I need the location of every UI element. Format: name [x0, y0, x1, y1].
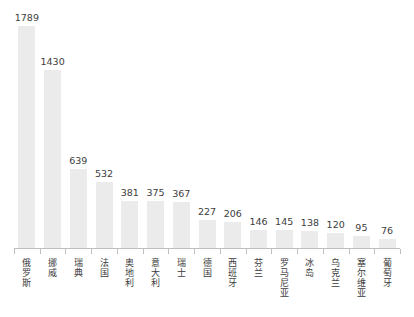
bar-group[interactable]: 206 — [224, 12, 241, 248]
bar-group[interactable]: 367 — [173, 12, 190, 248]
axis-tick — [220, 249, 221, 254]
bar-group[interactable]: 76 — [379, 12, 396, 248]
bar-chart: 1789143063953238137536722720614614513812… — [0, 0, 414, 317]
axis-tick — [374, 249, 375, 254]
bar-group[interactable]: 1430 — [44, 12, 61, 248]
bar[interactable] — [199, 220, 216, 248]
axis-tick — [168, 249, 169, 254]
category-label: 法国 — [99, 258, 110, 278]
bar-group[interactable]: 381 — [121, 12, 138, 248]
bar-group[interactable]: 120 — [327, 12, 344, 248]
bar[interactable] — [301, 231, 318, 248]
axis-tick — [14, 249, 15, 254]
bar[interactable] — [121, 201, 138, 248]
bar-group[interactable]: 227 — [199, 12, 216, 248]
bar-group[interactable]: 146 — [250, 12, 267, 248]
x-axis-line — [14, 248, 400, 249]
bar-group[interactable]: 145 — [276, 12, 293, 248]
bar-value-label: 1789 — [15, 13, 39, 23]
axis-tick — [194, 249, 195, 254]
category-label: 西班牙 — [227, 258, 238, 288]
category-label: 塞尔维亚 — [356, 258, 367, 298]
bar[interactable] — [96, 182, 113, 248]
bar[interactable] — [173, 202, 190, 248]
axis-tick — [349, 249, 350, 254]
bar-value-label: 375 — [146, 188, 164, 198]
category-label: 奥地利 — [124, 258, 135, 288]
bar[interactable] — [70, 169, 87, 248]
bar[interactable] — [18, 26, 35, 248]
axis-tick — [400, 249, 401, 254]
bar-value-label: 206 — [224, 209, 242, 219]
bar-value-label: 227 — [198, 207, 216, 217]
axis-tick — [246, 249, 247, 254]
plot-area: 1789143063953238137536722720614614513812… — [14, 12, 400, 248]
axis-tick — [323, 249, 324, 254]
bar-value-label: 146 — [249, 217, 267, 227]
category-label: 俄罗斯 — [21, 258, 32, 288]
bar[interactable] — [147, 201, 164, 248]
axis-tick — [91, 249, 92, 254]
category-label: 芬兰 — [253, 258, 264, 278]
category-label: 德国 — [202, 258, 213, 278]
axis-tick — [143, 249, 144, 254]
bar-value-label: 145 — [275, 217, 293, 227]
bar[interactable] — [327, 233, 344, 248]
bar-value-label: 138 — [301, 218, 319, 228]
bar-value-label: 76 — [381, 226, 393, 236]
bar-group[interactable]: 95 — [353, 12, 370, 248]
bar[interactable] — [276, 230, 293, 248]
category-label: 挪威 — [47, 258, 58, 278]
bar[interactable] — [379, 239, 396, 248]
category-label: 冰岛 — [304, 258, 315, 278]
axis-tick — [297, 249, 298, 254]
axis-tick — [65, 249, 66, 254]
axis-tick — [40, 249, 41, 254]
bar-value-label: 1430 — [41, 57, 65, 67]
bar-value-label: 381 — [121, 188, 139, 198]
axis-tick — [117, 249, 118, 254]
bar[interactable] — [224, 222, 241, 248]
category-label: 乌克兰 — [330, 258, 341, 288]
category-label: 意大利 — [150, 258, 161, 288]
bar-value-label: 639 — [69, 156, 87, 166]
axis-tick — [271, 249, 272, 254]
bar-group[interactable]: 375 — [147, 12, 164, 248]
category-label: 瑞士 — [176, 258, 187, 278]
bar-group[interactable]: 639 — [70, 12, 87, 248]
category-label: 葡萄牙 — [382, 258, 393, 288]
bar-value-label: 532 — [95, 169, 113, 179]
bar-value-label: 120 — [327, 220, 345, 230]
category-label: 瑞典 — [73, 258, 84, 278]
bar-group[interactable]: 1789 — [18, 12, 35, 248]
category-label: 罗马尼亚 — [279, 258, 290, 298]
bar-value-label: 95 — [355, 223, 367, 233]
bar[interactable] — [44, 70, 61, 248]
bar[interactable] — [353, 236, 370, 248]
bar-group[interactable]: 532 — [96, 12, 113, 248]
bar-value-label: 367 — [172, 189, 190, 199]
bar-group[interactable]: 138 — [301, 12, 318, 248]
bar[interactable] — [250, 230, 267, 248]
